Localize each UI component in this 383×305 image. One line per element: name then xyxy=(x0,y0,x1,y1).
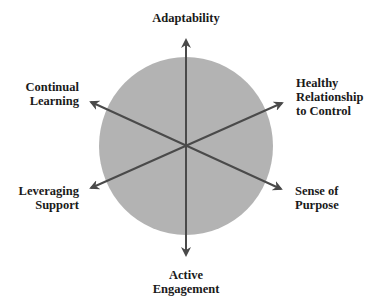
label-line: to Control xyxy=(296,104,363,118)
label-healthy-relationship: Healthy Relationship to Control xyxy=(296,76,363,118)
label-line: Learning xyxy=(0,94,79,108)
label-line: Adaptability xyxy=(125,11,247,25)
label-line: Sense of xyxy=(295,184,339,198)
label-leveraging-support: Leveraging Support xyxy=(0,184,79,212)
label-line: Active xyxy=(125,268,247,282)
label-adaptability: Adaptability xyxy=(125,11,247,25)
radial-diagram xyxy=(0,0,383,305)
label-continual-learning: Continual Learning xyxy=(0,80,79,108)
label-sense-of-purpose: Sense of Purpose xyxy=(295,184,339,212)
label-line: Healthy xyxy=(296,76,363,90)
label-line: Purpose xyxy=(295,198,339,212)
label-line: Continual xyxy=(0,80,79,94)
label-line: Support xyxy=(0,198,79,212)
label-line: Engagement xyxy=(125,282,247,296)
label-line: Leveraging xyxy=(0,184,79,198)
label-line: Relationship xyxy=(296,90,363,104)
label-active-engagement: Active Engagement xyxy=(125,268,247,296)
